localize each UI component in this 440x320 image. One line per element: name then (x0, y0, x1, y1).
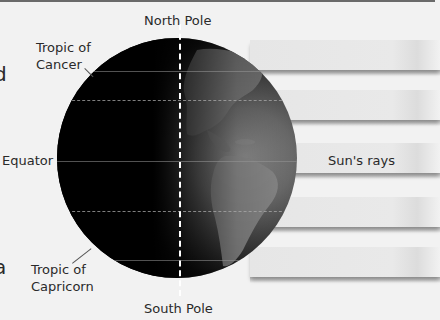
tropic-cancer-label-line2: Cancer (36, 57, 82, 73)
tropic-cancer-label-line1: Tropic of (36, 40, 91, 56)
south-pole-label: South Pole (144, 301, 213, 317)
edge-fragment-top: d (0, 62, 7, 86)
tropic-capricorn-label-line2: Capricorn (31, 279, 94, 295)
edge-fragment-bottom: a (0, 255, 6, 279)
suns-rays-label: Sun's rays (328, 153, 395, 169)
earth-axis (179, 24, 181, 296)
earth-globe (57, 38, 297, 278)
tropic-capricorn-line (57, 260, 297, 261)
tropic-capricorn-label-line1: Tropic of (31, 262, 86, 278)
tropic-cancer-line (57, 71, 297, 72)
north-pole-label: North Pole (144, 13, 211, 29)
latitude-dashed-south (57, 211, 297, 212)
equator-label: Equator (2, 153, 53, 169)
latitude-dashed-north (57, 100, 297, 101)
equator-line (57, 161, 297, 162)
night-shade (57, 38, 297, 278)
top-border (0, 0, 435, 2)
